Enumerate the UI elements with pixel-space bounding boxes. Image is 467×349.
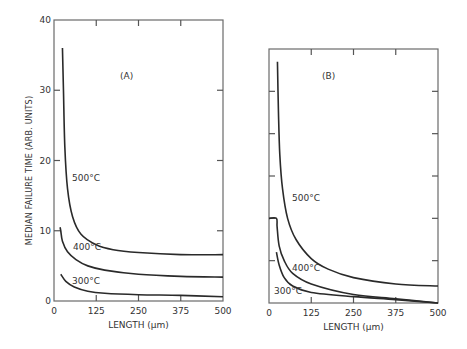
x-tick-label: 250 [345, 308, 362, 318]
figure: 0125250375500010203040LENGTH (μm)MEDIAN … [0, 0, 467, 349]
x-tick-label: 375 [387, 308, 404, 318]
y-tick-label: 40 [40, 15, 52, 25]
series-line-500c [62, 48, 223, 255]
curve-label: 400°C [292, 263, 320, 273]
x-tick-label: 500 [429, 308, 446, 318]
panel-label: (A) [120, 71, 133, 81]
panel-a-chart: 0125250375500010203040LENGTH (μm)MEDIAN … [25, 15, 232, 330]
x-axis-label: LENGTH (μm) [108, 320, 169, 330]
plot-frame [54, 20, 223, 301]
curve-label: 300°C [72, 276, 100, 286]
panel-b-chart: 0125250375500LENGTH (μm)(B)500°C400°C300… [266, 49, 447, 332]
x-tick-label: 250 [130, 306, 147, 316]
curve-label: 300°C [274, 286, 302, 296]
x-axis-label: LENGTH (μm) [323, 322, 384, 332]
y-tick-label: 20 [40, 156, 52, 166]
curve-label: 500°C [292, 193, 320, 203]
x-tick-label: 375 [172, 306, 189, 316]
series-line-500c [277, 62, 438, 286]
x-tick-label: 125 [88, 306, 105, 316]
y-axis-label: MEDIAN FAILURE TIME (ARB. UNITS) [25, 96, 34, 245]
x-tick-label: 0 [266, 308, 272, 318]
y-tick-label: 30 [40, 85, 52, 95]
curve-label: 500°C [72, 173, 100, 183]
y-tick-label: 10 [40, 226, 52, 236]
curve-label: 400°C [73, 242, 101, 252]
x-tick-label: 500 [214, 306, 231, 316]
panel-label: (B) [322, 71, 335, 81]
x-tick-label: 125 [303, 308, 320, 318]
y-tick-label: 0 [45, 296, 51, 306]
x-tick-label: 0 [51, 306, 57, 316]
